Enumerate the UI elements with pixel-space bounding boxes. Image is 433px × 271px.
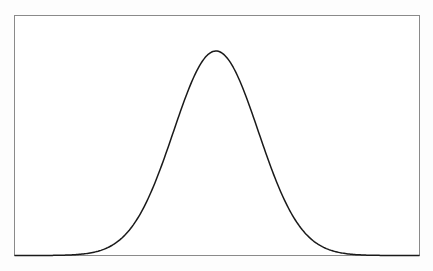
chart bbox=[0, 0, 433, 271]
